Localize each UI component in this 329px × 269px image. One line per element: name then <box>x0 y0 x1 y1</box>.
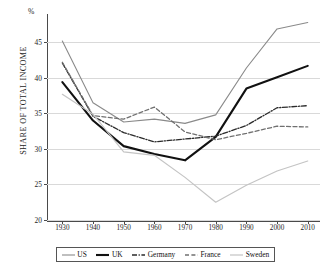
y-axis-tick-label: 45 <box>20 38 42 47</box>
legend-label-germany: Germany <box>148 250 176 259</box>
legend-swatch-uk <box>96 252 109 258</box>
series-line-sweden <box>62 94 307 202</box>
chart-legend: US UK Germany France Sweden <box>56 247 275 262</box>
x-axis-tick-mark <box>62 221 63 224</box>
y-axis-tick-label: 30 <box>20 145 42 154</box>
legend-item-us[interactable]: US <box>62 250 87 259</box>
series-line-us <box>62 23 307 124</box>
legend-label-uk: UK <box>112 250 123 259</box>
x-axis-tick-mark <box>154 221 155 224</box>
series-line-uk <box>62 66 307 160</box>
legend-label-us: US <box>77 250 86 259</box>
legend-swatch-us <box>62 252 75 258</box>
legend-item-sweden[interactable]: Sweden <box>230 250 269 259</box>
x-axis-tick-label: 2010 <box>288 224 328 232</box>
legend-label-france: France <box>200 250 220 259</box>
series-group <box>47 14 320 220</box>
series-line-france <box>62 62 307 139</box>
legend-swatch-france <box>185 252 198 258</box>
gridline <box>47 220 320 221</box>
legend-label-sweden: Sweden <box>246 250 269 259</box>
legend-item-uk[interactable]: UK <box>96 250 122 259</box>
x-axis-tick-mark <box>246 221 247 224</box>
series-line-germany <box>62 63 307 142</box>
x-axis-tick-mark <box>93 221 94 224</box>
x-axis-tick-mark <box>277 221 278 224</box>
x-axis-tick-mark <box>124 221 125 224</box>
legend-item-france[interactable]: France <box>185 250 221 259</box>
y-axis-tick-label: 25 <box>20 180 42 189</box>
x-axis-tick-mark <box>308 221 309 224</box>
plot-area <box>47 14 320 220</box>
y-axis-tick-label: 40 <box>20 74 42 83</box>
x-axis-tick-mark <box>216 221 217 224</box>
legend-item-germany[interactable]: Germany <box>132 250 175 259</box>
legend-swatch-germany <box>132 252 145 258</box>
income-share-line-chart: SHARE OF TOTAL INCOME % 202530354045 193… <box>0 0 329 269</box>
legend-swatch-sweden <box>230 252 243 258</box>
y-axis-tick-label: 20 <box>20 216 42 225</box>
y-axis-tick-label: 35 <box>20 109 42 118</box>
x-axis-tick-mark <box>185 221 186 224</box>
